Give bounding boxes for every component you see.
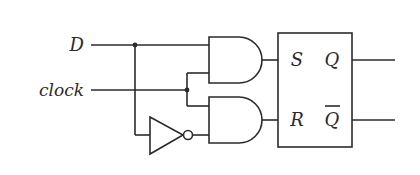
and-gate-top [209,37,262,83]
latch-input-r: R [289,109,304,130]
latch-output-q: Q [325,49,340,70]
junction-dot-clock [185,88,190,93]
latch-output-q-bar: Q [325,109,340,130]
input-label-d: D [69,34,85,55]
sr-latch-box [278,33,352,147]
wire-clock [91,73,209,106]
inverter-bubble [184,131,193,140]
circuit-diagram: D clock S R Q Q [0,0,420,175]
input-label-clock: clock [39,80,84,100]
junction-dot-d [133,43,138,48]
not-gate [150,117,209,154]
latch-input-s: S [291,49,303,70]
and-gate-bottom [209,97,262,143]
